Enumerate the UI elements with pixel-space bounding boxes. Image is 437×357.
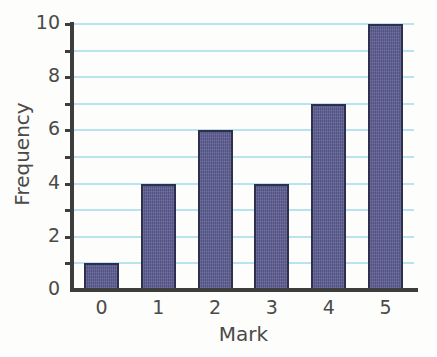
bar (84, 263, 119, 290)
x-axis-title: Mark (73, 322, 414, 346)
x-tick-label: 4 (309, 296, 349, 318)
x-tick-label: 3 (252, 296, 292, 318)
bar (368, 24, 403, 290)
y-tick-label: 0 (26, 279, 60, 298)
bar (311, 104, 346, 290)
y-tick-label: 10 (26, 13, 60, 32)
x-axis-line (70, 288, 418, 292)
bar (198, 130, 233, 290)
y-axis-line (70, 22, 74, 292)
bar (254, 184, 289, 290)
y-axis-title: Frequency (10, 74, 34, 234)
x-tick-label: 5 (366, 296, 406, 318)
x-tick-label: 2 (195, 296, 235, 318)
bar (141, 184, 176, 290)
frequency-bar-chart: 0246810 012345 Mark Frequency (0, 0, 437, 357)
plot-area (73, 24, 414, 290)
x-tick-label: 0 (82, 296, 122, 318)
x-tick-label: 1 (138, 296, 178, 318)
